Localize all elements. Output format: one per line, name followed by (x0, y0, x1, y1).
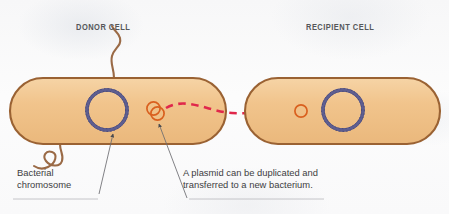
recipient-cell-body (245, 78, 440, 144)
bacterial-chromosome-annotation-line-1: Bacterial (17, 167, 71, 179)
donor-cell-label: DONOR CELL (76, 22, 130, 32)
plasmid-transfer-annotation-line-1: A plasmid can be duplicated and (183, 167, 318, 179)
donor-cell-group (10, 26, 226, 169)
donor-flagellum-top-icon (111, 26, 120, 78)
bacterial-chromosome-annotation-line-2: chromosome (17, 179, 71, 191)
donor-cell-body (10, 78, 226, 144)
donor-flagellum-bottom-icon (34, 144, 63, 169)
bacterial-chromosome-annotation: Bacterial chromosome (17, 167, 71, 191)
recipient-cell-label: RECIPIENT CELL (306, 22, 374, 32)
plasmid-transfer-annotation: A plasmid can be duplicated and transfer… (183, 167, 318, 191)
recipient-cell-group (245, 78, 440, 144)
plasmid-transfer-annotation-line-2: transferred to a new bacterium. (183, 179, 318, 191)
figure-canvas: DONOR CELL RECIPIENT CELL Bacterial chro… (0, 0, 449, 214)
